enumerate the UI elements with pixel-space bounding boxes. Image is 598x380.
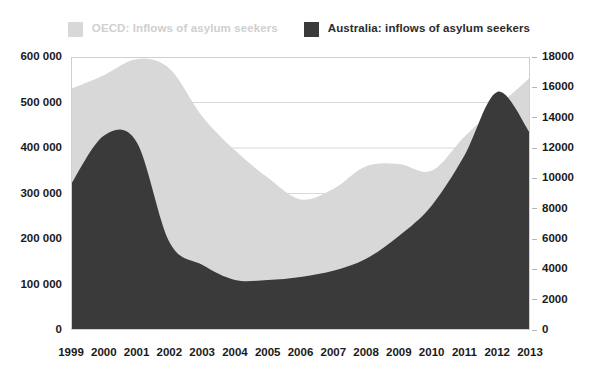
- y-tick-mark-right: [532, 269, 537, 270]
- x-tick-2007: 2007: [320, 347, 346, 359]
- plot-svg: [71, 57, 530, 330]
- y-tick-right: 6000: [542, 233, 568, 245]
- x-tick-2003: 2003: [189, 347, 215, 359]
- y-tick-mark-right: [532, 239, 537, 240]
- y-tick-right: 4000: [542, 264, 568, 276]
- x-tick-1999: 1999: [58, 347, 84, 359]
- legend-swatch-australia-icon: [304, 22, 319, 37]
- y-tick-mark-right: [532, 57, 537, 58]
- plot-area: [71, 57, 530, 330]
- legend-swatch-oecd-icon: [68, 22, 83, 37]
- y-tick-right: 0: [542, 324, 548, 336]
- y-tick-right: 18000: [542, 51, 574, 63]
- y-tick-right: 10000: [542, 173, 574, 185]
- x-tick-2010: 2010: [419, 347, 445, 359]
- y-tick-left: 100 000: [0, 279, 62, 291]
- y-tick-mark-right: [532, 330, 537, 331]
- legend-label-australia: Australia: inflows of asylum seekers: [328, 23, 530, 35]
- y-tick-mark-right: [532, 117, 537, 118]
- y-tick-left: 200 000: [0, 233, 62, 245]
- x-tick-2004: 2004: [222, 347, 248, 359]
- y-tick-left: 600 000: [0, 51, 62, 63]
- x-tick-2011: 2011: [452, 347, 477, 359]
- y-tick-mark-right: [532, 299, 537, 300]
- x-tick-2001: 2001: [124, 347, 150, 359]
- y-tick-left: 500 000: [0, 97, 62, 109]
- y-tick-left: 300 000: [0, 188, 62, 200]
- y-tick-mark-right: [532, 87, 537, 88]
- y-tick-mark-right: [532, 208, 537, 209]
- x-tick-2012: 2012: [484, 347, 510, 359]
- y-tick-mark-right: [532, 178, 537, 179]
- y-tick-right: 14000: [542, 112, 574, 124]
- y-tick-mark-right: [532, 148, 537, 149]
- x-tick-2009: 2009: [386, 347, 412, 359]
- y-tick-left: 0: [0, 324, 62, 336]
- y-tick-left: 400 000: [0, 142, 62, 154]
- x-tick-2013: 2013: [517, 347, 543, 359]
- y-tick-right: 16000: [542, 82, 574, 94]
- y-tick-right: 12000: [542, 142, 574, 154]
- x-tick-2005: 2005: [255, 347, 281, 359]
- asylum-seekers-area-chart: OECD: Inflows of asylum seekers Australi…: [0, 0, 598, 380]
- legend-label-oecd: OECD: Inflows of asylum seekers: [92, 23, 278, 35]
- y-tick-right: 8000: [542, 203, 568, 215]
- x-tick-2006: 2006: [288, 347, 314, 359]
- y-tick-right: 2000: [542, 294, 568, 306]
- legend-item-australia: Australia: inflows of asylum seekers: [304, 22, 530, 37]
- legend-item-oecd: OECD: Inflows of asylum seekers: [68, 22, 278, 37]
- x-tick-2000: 2000: [91, 347, 117, 359]
- x-tick-2002: 2002: [157, 347, 183, 359]
- x-tick-2008: 2008: [353, 347, 379, 359]
- chart-legend: OECD: Inflows of asylum seekers Australi…: [0, 18, 598, 40]
